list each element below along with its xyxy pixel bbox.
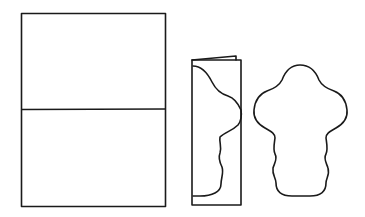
folded-strip: [192, 56, 241, 205]
sheet-of-paper: [22, 14, 166, 207]
cutout-outline: [254, 65, 347, 196]
strip-outline: [192, 60, 241, 205]
fold-line: [22, 109, 165, 110]
half-shape-outline: [193, 66, 241, 196]
cutout-shape: [254, 65, 347, 196]
paper-folding-diagram: [0, 0, 365, 217]
